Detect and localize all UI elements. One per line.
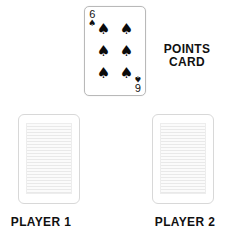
player-1-card[interactable] [18, 114, 80, 204]
player-1-label: PLAYER 1 [7, 215, 75, 228]
points-card-label-line2: CARD [158, 55, 217, 68]
spade-icon: ♠ [120, 22, 133, 37]
spade-icon: ♠ [120, 66, 133, 81]
player-2-label: PLAYER 2 [151, 215, 219, 228]
spade-icon: ♠ [97, 22, 110, 37]
spade-icon: ♠ [97, 44, 110, 59]
spade-icon: ♠ [134, 74, 142, 83]
points-card[interactable]: 6 ♠ ♠ ♠ ♠ ♠ ♠ ♠ 6 ♠ [84, 6, 146, 96]
card-corner-bottom-right: 6 ♠ [134, 74, 142, 93]
spade-icon: ♠ [97, 66, 110, 81]
points-card-label: POINTS CARD [158, 42, 217, 68]
card-back-pattern [26, 123, 72, 194]
card-game-board: 6 ♠ ♠ ♠ ♠ ♠ ♠ ♠ 6 ♠ POINTS CARD PLAYER 1… [0, 0, 226, 233]
card-pip-grid: ♠ ♠ ♠ ♠ ♠ ♠ [92, 19, 138, 84]
player-2-card[interactable] [152, 114, 214, 204]
card-back-pattern [160, 123, 206, 194]
spade-icon: ♠ [120, 44, 133, 59]
